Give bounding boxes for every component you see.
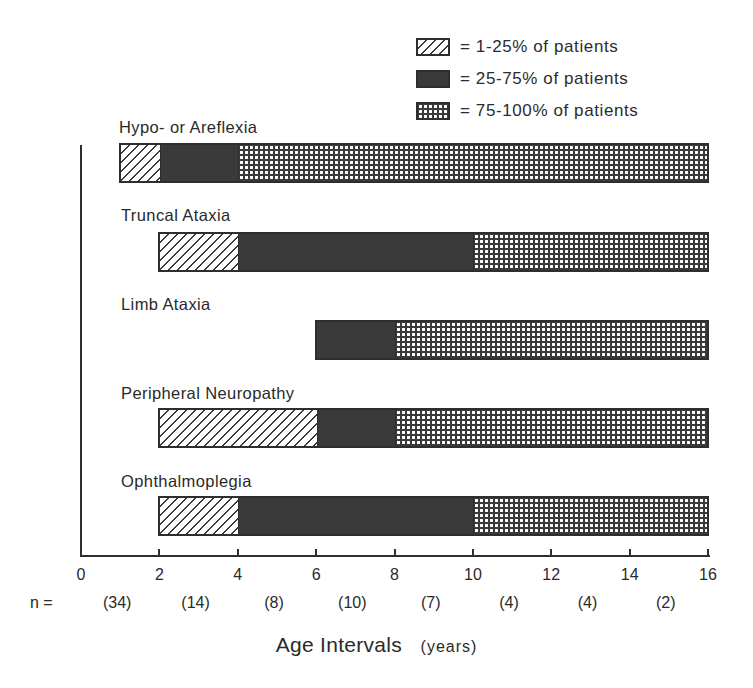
bar-segment-cross	[473, 234, 707, 270]
bar-segment-cross	[395, 322, 707, 358]
bar-segment-solid	[160, 145, 238, 181]
x-tick-label: 4	[233, 566, 242, 584]
stacked-bar	[315, 320, 709, 360]
category-label: Truncal Ataxia	[121, 206, 231, 225]
x-tick-label: 0	[77, 566, 86, 584]
x-tick-mark	[550, 549, 552, 557]
x-tick-label: 2	[155, 566, 164, 584]
stacked-bar	[158, 496, 709, 536]
x-tick-label: 10	[464, 566, 482, 584]
x-tick-label: 6	[312, 566, 321, 584]
n-count-label: (4)	[578, 594, 598, 612]
y-axis-line	[80, 145, 82, 557]
legend-item-75-100: = 75-100% of patients	[416, 100, 638, 122]
category-label: Limb Ataxia	[121, 295, 211, 314]
bar-segment-hatch	[160, 410, 316, 446]
bar-segment-solid	[317, 322, 395, 358]
x-tick-mark	[472, 549, 474, 557]
bar-segment-hatch	[160, 498, 238, 534]
stacked-bar	[158, 232, 709, 272]
bar-segment-cross	[238, 145, 707, 181]
n-count-label: (14)	[181, 594, 209, 612]
n-prefix-label: n =	[30, 594, 53, 612]
x-tick-mark	[237, 549, 239, 557]
legend-label: = 1-25% of patients	[460, 37, 618, 57]
n-count-label: (4)	[499, 594, 519, 612]
n-count-label: (34)	[103, 594, 131, 612]
legend-label: = 25-75% of patients	[460, 69, 628, 89]
legend-item-1-25: = 1-25% of patients	[416, 36, 618, 58]
n-count-label: (10)	[338, 594, 366, 612]
bar-segment-solid	[317, 410, 395, 446]
bar-segment-hatch	[160, 234, 238, 270]
stacked-bar	[119, 143, 709, 183]
x-axis-label: Age Intervals	[276, 633, 402, 656]
x-tick-label: 16	[699, 566, 717, 584]
x-tick-label: 12	[542, 566, 560, 584]
bar-segment-cross	[395, 410, 707, 446]
x-tick-mark	[394, 549, 396, 557]
category-label: Hypo- or Areflexia	[119, 118, 257, 137]
n-count-label: (8)	[264, 594, 284, 612]
bar-segment-hatch	[121, 145, 160, 181]
n-count-label: (7)	[421, 594, 441, 612]
n-count-label: (2)	[656, 594, 676, 612]
hatch-pattern-swatch-icon	[416, 38, 450, 56]
bar-segment-cross	[473, 498, 707, 534]
x-tick-mark	[629, 549, 631, 557]
x-tick-label: 8	[390, 566, 399, 584]
x-axis-units: (years)	[421, 638, 478, 655]
legend-item-25-75: = 25-75% of patients	[416, 68, 628, 90]
bar-segment-solid	[238, 498, 472, 534]
x-tick-mark	[707, 549, 709, 557]
category-label: Ophthalmoplegia	[121, 472, 252, 491]
crosshatch-pattern-swatch-icon	[416, 102, 450, 120]
legend-label: = 75-100% of patients	[460, 101, 638, 121]
x-tick-mark	[158, 549, 160, 557]
x-axis-title: Age Intervals (years)	[0, 633, 753, 657]
category-label: Peripheral Neuropathy	[121, 384, 295, 403]
x-tick-label: 14	[621, 566, 639, 584]
x-tick-mark	[315, 549, 317, 557]
stacked-bar	[158, 408, 709, 448]
bar-segment-solid	[238, 234, 472, 270]
solid-pattern-swatch-icon	[416, 70, 450, 88]
